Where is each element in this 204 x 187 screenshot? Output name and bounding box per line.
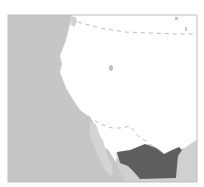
lake-marker <box>109 65 113 71</box>
locator-map <box>0 0 204 187</box>
island-marker <box>175 17 178 20</box>
island-marker <box>185 27 187 31</box>
map-canvas <box>0 0 204 187</box>
